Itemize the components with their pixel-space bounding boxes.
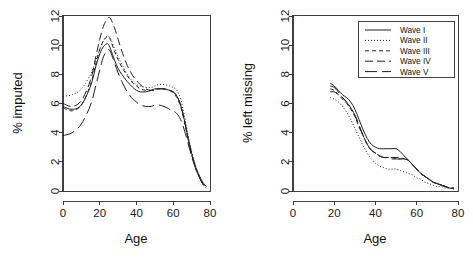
y-tick-label: 12 (279, 10, 291, 23)
legend-label-wave-ii: Wave II (400, 36, 427, 45)
x-axis-title-right: Age (363, 231, 386, 246)
y-axis-right: 024681012 (279, 10, 293, 195)
series-line-wave-iii (330, 89, 454, 188)
x-tick-label: 60 (167, 207, 180, 219)
x-tick-label: 0 (290, 207, 296, 219)
chart-panel-imputed: 024681012 020406080 Age % imputed (0, 0, 237, 259)
series-line-wave-ii (330, 98, 454, 190)
y-tick-label: 6 (49, 100, 61, 106)
y-axis-title-right: % left missing (240, 63, 255, 143)
series-line-wave-ii (63, 36, 206, 187)
x-tick-label: 40 (130, 207, 143, 219)
y-tick-label: 8 (49, 71, 61, 77)
y-axis-left: 024681012 (49, 10, 63, 195)
y-tick-label: 10 (279, 39, 291, 52)
y-tick-label: 4 (279, 129, 291, 136)
x-tick-label: 80 (204, 207, 217, 219)
y-tick-label: 2 (49, 159, 61, 165)
legend-label-wave-i: Wave I (400, 26, 425, 35)
y-tick-label: 10 (49, 39, 61, 52)
series-line-wave-i (330, 83, 454, 188)
curve-group-right (330, 83, 454, 189)
x-axis-right: 020406080 (290, 201, 465, 219)
x-tick-label: 20 (328, 207, 341, 219)
legend-label-wave-iv: Wave IV (400, 57, 431, 66)
x-tick-label: 40 (369, 207, 382, 219)
y-tick-label: 0 (279, 188, 291, 194)
y-tick-label: 8 (279, 71, 291, 77)
y-axis-title-left: % imputed (10, 72, 25, 133)
series-line-wave-iii (63, 36, 206, 188)
x-tick-label: 20 (93, 207, 106, 219)
y-tick-label: 0 (49, 188, 61, 194)
x-axis-title-left: Age (124, 231, 147, 246)
legend-label-wave-v: Wave V (400, 68, 429, 77)
legend-right: Wave IWave IIWave IIIWave IVWave V (359, 22, 455, 78)
series-line-wave-v (330, 86, 454, 188)
chart-panel-left-missing: 024681012 020406080 Wave IWave IIWave II… (236, 0, 473, 259)
y-tick-label: 6 (279, 100, 291, 106)
plot-frame-left (63, 16, 211, 192)
series-line-wave-iv (63, 17, 206, 188)
plot-svg-left: 024681012 020406080 Age % imputed (0, 0, 237, 259)
series-line-wave-iv (330, 92, 454, 189)
legend-label-wave-iii: Wave III (400, 47, 430, 56)
x-tick-label: 0 (60, 207, 66, 219)
series-line-wave-i (63, 44, 206, 187)
figure-canvas: 024681012 020406080 Age % imputed 024681… (0, 0, 473, 259)
curve-group-left (63, 17, 206, 188)
y-tick-label: 12 (49, 10, 61, 23)
x-tick-label: 60 (410, 207, 423, 219)
plot-svg-right: 024681012 020406080 Wave IWave IIWave II… (236, 0, 473, 259)
y-tick-label: 2 (279, 159, 291, 165)
x-tick-label: 80 (452, 207, 465, 219)
x-axis-left: 020406080 (60, 201, 217, 219)
y-tick-label: 4 (49, 129, 61, 136)
